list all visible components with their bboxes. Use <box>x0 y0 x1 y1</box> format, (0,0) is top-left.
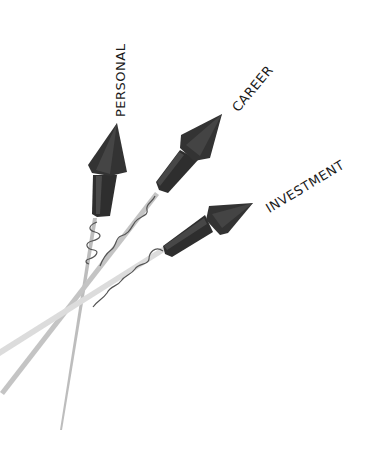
rockets-artwork <box>0 0 386 459</box>
rocket-investment <box>163 203 253 257</box>
rocket-career <box>156 114 222 193</box>
rocket-sticks <box>0 192 166 430</box>
label-personal: PERSONAL <box>113 44 128 117</box>
rocket-personal <box>88 123 127 217</box>
rockets-illustration: PERSONAL CAREER INVESTMENT <box>0 0 386 459</box>
